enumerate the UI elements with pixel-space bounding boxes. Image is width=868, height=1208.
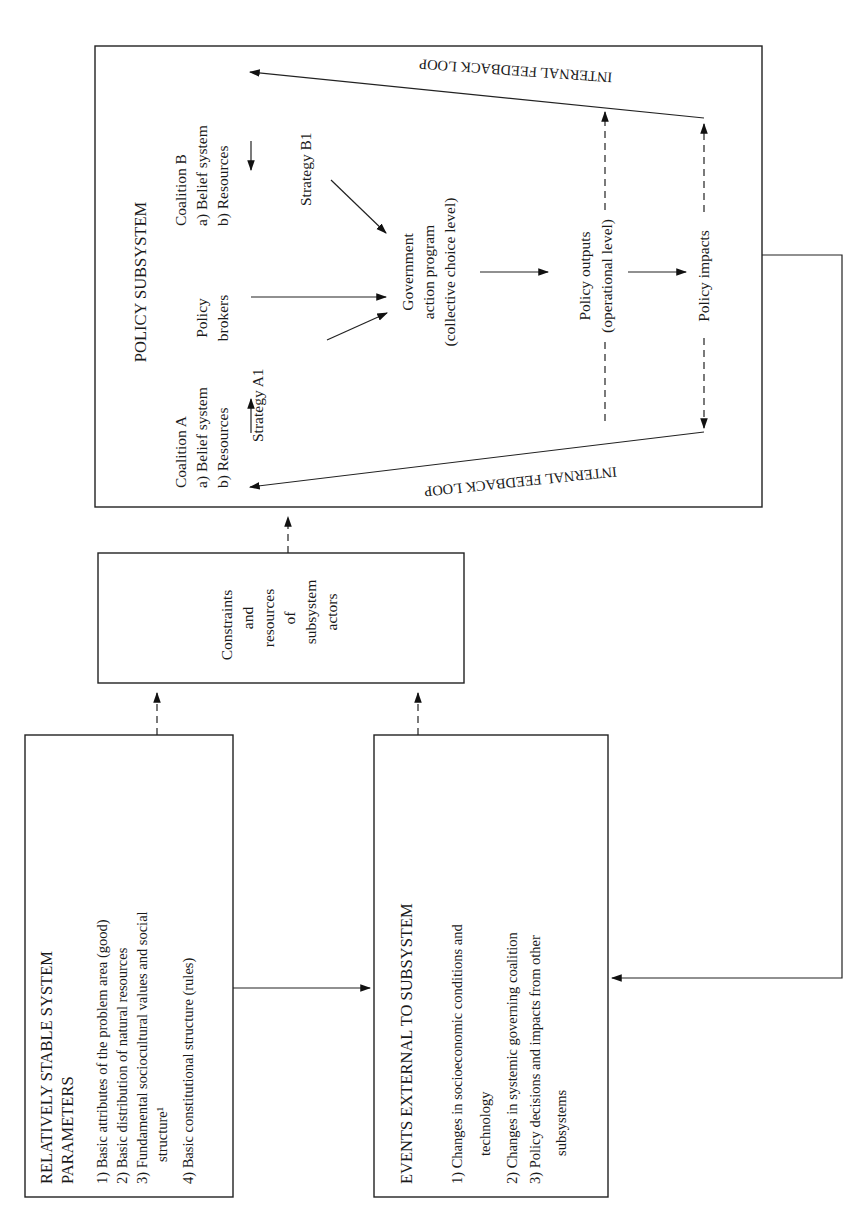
constraints-line4: of	[281, 611, 298, 625]
stable-params-item-3: 3) Fundamental sociocultural values and …	[134, 911, 151, 1184]
coalition-b-name: Coalition B	[172, 154, 189, 226]
external-events-title: EVENTS EXTERNAL TO SUBSYSTEM	[397, 903, 416, 1184]
external-events-item-1: 1) Changes in socioeconomic conditions a…	[449, 924, 466, 1184]
constraints-line1: Constraints	[218, 590, 235, 661]
external-events-item-3-cont: subsystems	[553, 1090, 569, 1156]
constraints-line6: actors	[323, 593, 340, 630]
strategy-b1: Strategy B1	[297, 132, 314, 206]
external-events-item-3: 3) Policy decisions and impacts from oth…	[527, 935, 544, 1184]
constraints-line2: and	[239, 607, 256, 630]
stable-params-item-3-cont: structure¹	[154, 1107, 170, 1162]
coalition-b-resources: b) Resources	[214, 146, 232, 227]
external-events-item-1-cont: technology	[477, 1091, 493, 1156]
external-events-item-2: 2) Changes in systemic governing coaliti…	[504, 932, 521, 1184]
stable-params-item-4: 4) Basic constitutional structure (rules…	[180, 958, 197, 1184]
advocacy-coalition-diagram: POLICY SUBSYSTEM Coalition A a) Belief s…	[0, 0, 868, 1208]
policy-brokers-line2: brokers	[214, 295, 231, 342]
coalition-a-name: Coalition A	[172, 415, 189, 488]
policy-outputs-line1: Policy outputs	[576, 231, 593, 320]
policy-impacts: Policy impacts	[695, 230, 712, 322]
stable-params-item-1: 1) Basic attributes of the problem area …	[94, 919, 111, 1184]
coalition-b-belief: a) Belief system	[193, 125, 211, 226]
coalition-a-resources: b) Resources	[214, 408, 232, 489]
policy-brokers-line1: Policy	[193, 298, 210, 338]
stable-params-title-line1: RELATIVELY STABLE SYSTEM	[37, 951, 56, 1184]
policy-subsystem-title: POLICY SUBSYSTEM	[131, 202, 150, 363]
strategy-a1: Strategy A1	[249, 368, 266, 442]
government-line1: Government	[399, 233, 416, 311]
stable-params-item-2: 2) Basic distribution of natural resourc…	[114, 947, 131, 1184]
constraints-line5: subsystem	[302, 580, 319, 645]
government-line2: action program	[420, 225, 437, 319]
policy-outputs-line2: (operational level)	[598, 219, 616, 333]
coalition-a-belief: a) Belief system	[193, 387, 211, 488]
government-line3: (collective choice level)	[441, 198, 459, 347]
constraints-line3: resources	[260, 589, 277, 648]
stable-params-title-line2: PARAMETERS	[58, 1076, 77, 1184]
